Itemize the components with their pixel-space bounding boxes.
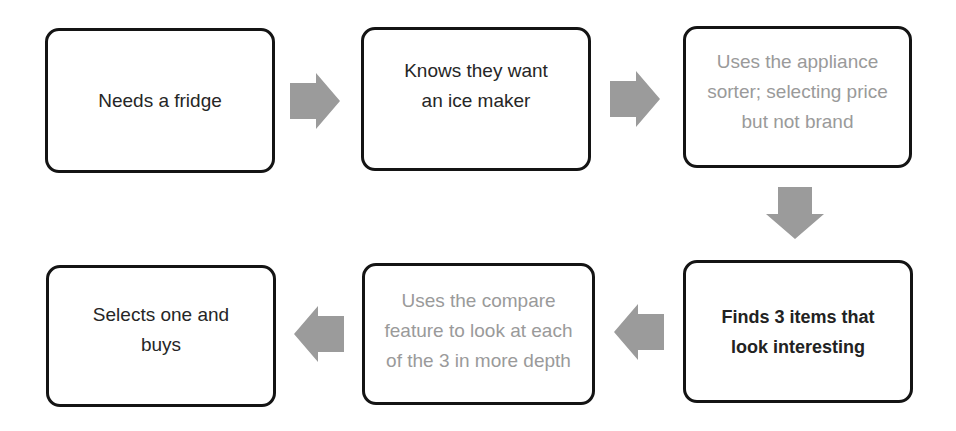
arrow-right-icon (290, 73, 340, 129)
step-4-box: Finds 3 items that look interesting (683, 260, 913, 403)
step-2-box: Knows they want an ice maker (361, 27, 591, 171)
step-3-box: Uses the appliance sorter; selecting pri… (683, 26, 912, 168)
arrow-left-icon (294, 306, 344, 362)
step-5-box: Uses the compare feature to look at each… (362, 263, 595, 405)
step-1-box: Needs a fridge (45, 28, 275, 173)
step-4-label: Finds 3 items that look interesting (706, 302, 891, 362)
step-6-box: Selects one and buys (46, 265, 276, 407)
arrow-right-icon (610, 71, 660, 127)
step-3-label: Uses the appliance sorter; selecting pri… (700, 47, 895, 137)
arrow-down-icon (766, 187, 824, 239)
step-6-label: Selects one and buys (79, 300, 244, 360)
step-2-label: Knows they want an ice maker (391, 56, 561, 116)
arrow-left-icon (614, 304, 664, 360)
step-5-label: Uses the compare feature to look at each… (381, 286, 576, 376)
step-1-label: Needs a fridge (98, 86, 222, 116)
